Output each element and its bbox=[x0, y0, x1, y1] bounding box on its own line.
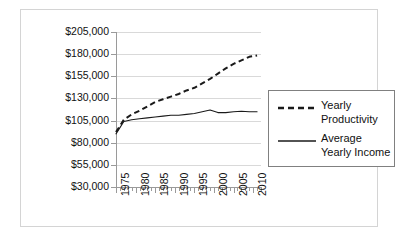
y-axis-tick-label: $105,000 bbox=[65, 115, 109, 126]
y-axis-tick-label: $155,000 bbox=[65, 70, 109, 81]
legend-label-line1: Average bbox=[321, 132, 362, 144]
y-axis-tick-label: $205,000 bbox=[65, 26, 109, 37]
y-axis-tick-label: $30,000 bbox=[71, 181, 109, 192]
legend-label-line1: Yearly bbox=[321, 99, 351, 111]
x-axis-minor-tick bbox=[132, 188, 133, 191]
x-axis-major-tick bbox=[155, 188, 156, 193]
legend-item-yearly-productivity: Yearly Productivity bbox=[277, 99, 378, 126]
legend-label-average-yearly-income: Average Yearly Income bbox=[321, 132, 390, 159]
legend-item-average-yearly-income: Average Yearly Income bbox=[277, 132, 390, 159]
x-axis-minor-tick bbox=[249, 188, 250, 191]
y-axis-labels: $205,000$180,000$155,000$130,000$105,000… bbox=[21, 10, 109, 244]
x-axis-minor-tick bbox=[230, 188, 231, 191]
chart-frame: $205,000$180,000$155,000$130,000$105,000… bbox=[20, 9, 378, 227]
y-axis-tick-label: $130,000 bbox=[65, 92, 109, 103]
x-axis-major-tick bbox=[253, 188, 254, 193]
x-axis-minor-tick bbox=[151, 188, 152, 191]
legend-label-line2: Productivity bbox=[321, 113, 378, 125]
x-axis-minor-tick bbox=[190, 188, 191, 191]
x-axis-major-tick bbox=[116, 188, 117, 193]
dashed-line-swatch-icon bbox=[277, 100, 317, 112]
y-axis-tick-label: $80,000 bbox=[71, 137, 109, 148]
solid-line-swatch-icon bbox=[277, 133, 317, 145]
series-plot bbox=[116, 32, 262, 188]
series-line-yearly-productivity bbox=[116, 55, 257, 132]
x-axis-major-tick bbox=[194, 188, 195, 193]
x-axis-major-tick bbox=[234, 188, 235, 193]
chart-legend: Yearly Productivity Average Yearly Incom… bbox=[268, 90, 395, 167]
x-axis-major-tick bbox=[175, 188, 176, 193]
legend-label-yearly-productivity: Yearly Productivity bbox=[321, 99, 378, 126]
legend-label-line2: Yearly Income bbox=[321, 146, 390, 158]
series-line-average-yearly-income bbox=[116, 110, 257, 134]
x-axis-minor-tick bbox=[171, 188, 172, 191]
x-axis-major-tick bbox=[214, 188, 215, 193]
y-axis-tick-label: $180,000 bbox=[65, 48, 109, 59]
x-axis-minor-tick bbox=[210, 188, 211, 191]
y-axis-tick-label: $55,000 bbox=[71, 159, 109, 170]
x-axis-major-tick bbox=[136, 188, 137, 193]
